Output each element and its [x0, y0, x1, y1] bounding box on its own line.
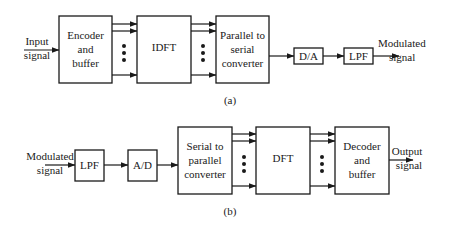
parallel-arrows-dft-decoder — [310, 134, 335, 186]
svg-text:D/A: D/A — [299, 50, 318, 62]
svg-text:LPF: LPF — [349, 50, 368, 62]
svg-text:Serial to: Serial to — [187, 140, 224, 152]
parallel-arrows-idft-p2s — [191, 24, 216, 75]
da-block: D/A — [294, 48, 323, 64]
svg-text:buffer: buffer — [72, 57, 99, 69]
input-signal-label-line1: Input — [25, 35, 48, 47]
svg-text:parallel: parallel — [189, 154, 222, 166]
modulated-signal-label-line2: signal — [389, 51, 415, 63]
output-signal-label-line1: Output — [392, 145, 423, 157]
parallel-arrows-s2p-dft — [232, 134, 256, 186]
svg-text:DFT: DFT — [273, 152, 294, 164]
parallel-to-serial-block: Parallel to serial converter — [216, 16, 269, 83]
svg-text:and: and — [78, 43, 94, 55]
input-signal-label-line2: signal — [24, 49, 50, 61]
caption-a: (a) — [224, 94, 237, 107]
svg-text:converter: converter — [222, 57, 264, 69]
svg-text:LPF: LPF — [80, 159, 99, 171]
encoder-buffer-block: Encoder and buffer — [59, 16, 112, 83]
rx-input-label-line1: Modulated — [26, 150, 74, 162]
svg-text:serial: serial — [231, 43, 255, 55]
ad-block: A/D — [128, 150, 157, 181]
parallel-arrows-encoder-idft — [112, 24, 137, 75]
diagram-a-transmitter: Input signal Encoder and buffer IDFT — [24, 16, 426, 107]
idft-block: IDFT — [137, 16, 191, 83]
output-signal-label-line2: signal — [396, 159, 422, 171]
svg-text:and: and — [354, 154, 370, 166]
diagram-b-receiver: Modulated signal LPF A/D Serial to paral… — [26, 127, 422, 218]
svg-text:converter: converter — [184, 168, 226, 180]
decoder-buffer-block: Decoder and buffer — [335, 127, 389, 194]
caption-b: (b) — [224, 205, 237, 218]
svg-text:Decoder: Decoder — [343, 140, 381, 152]
ofdm-block-diagram: Input signal Encoder and buffer IDFT — [0, 0, 449, 230]
modulated-signal-label-line1: Modulated — [378, 37, 426, 49]
dft-block: DFT — [256, 127, 310, 194]
svg-text:A/D: A/D — [133, 159, 152, 171]
svg-text:Parallel to: Parallel to — [220, 29, 265, 41]
rx-input-label-line2: signal — [37, 164, 63, 176]
lpf-block-rx: LPF — [75, 150, 104, 181]
svg-text:Encoder: Encoder — [67, 29, 104, 41]
serial-to-parallel-block: Serial to parallel converter — [178, 127, 232, 194]
svg-text:buffer: buffer — [349, 168, 376, 180]
lpf-block-tx: LPF — [344, 48, 373, 64]
svg-text:IDFT: IDFT — [152, 41, 177, 53]
